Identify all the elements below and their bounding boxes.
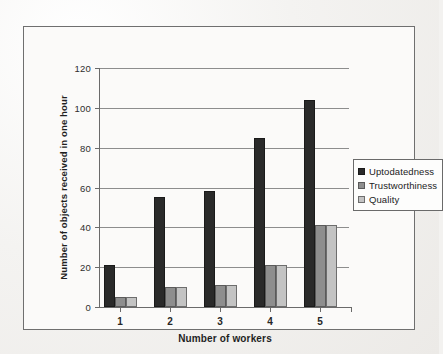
- x-tick-mark: [270, 307, 271, 312]
- plot-area: 020406080100120: [99, 68, 349, 307]
- legend-swatch-icon: [358, 168, 365, 175]
- y-tick-mark: [95, 188, 100, 189]
- x-tick-label: 5: [317, 316, 323, 327]
- legend-label: Trustworthiness: [369, 180, 437, 191]
- y-tick-label: 80: [80, 142, 91, 153]
- y-tick-mark: [95, 227, 100, 228]
- bar: [204, 191, 215, 307]
- bar: [276, 265, 287, 307]
- x-tick-label: 4: [267, 316, 273, 327]
- y-tick-mark: [95, 267, 100, 268]
- x-axis-line: [99, 307, 351, 308]
- chart-legend: UptodatednessTrustworthinessQuality: [353, 159, 443, 211]
- y-tick-mark: [95, 68, 100, 69]
- bar: [176, 287, 187, 307]
- x-tick-mark: [220, 307, 221, 312]
- bar: [215, 285, 226, 307]
- legend-item[interactable]: Trustworthiness: [358, 178, 437, 192]
- x-tick-mark: [170, 307, 171, 312]
- legend-label: Uptodatedness: [369, 166, 434, 177]
- gridline: [99, 68, 349, 69]
- y-tick-label: 40: [80, 222, 91, 233]
- legend-swatch-icon: [358, 196, 365, 203]
- x-tick-mark: [120, 307, 121, 312]
- x-tick-mark: [320, 307, 321, 312]
- y-tick-label: 0: [86, 302, 91, 313]
- y-tick-label: 60: [80, 182, 91, 193]
- x-tick-mark: [351, 307, 352, 312]
- y-tick-label: 100: [75, 102, 91, 113]
- legend-label: Quality: [369, 194, 399, 205]
- bar: [265, 265, 276, 307]
- legend-swatch-icon: [358, 182, 365, 189]
- bar: [326, 225, 337, 307]
- bar: [154, 197, 165, 307]
- x-tick-label: 1: [117, 316, 123, 327]
- chart-frame: Number of objects received in one hour N…: [23, 26, 415, 330]
- y-tick-label: 120: [75, 63, 91, 74]
- bar: [226, 285, 237, 307]
- bar: [104, 265, 115, 307]
- bar: [115, 297, 126, 307]
- bar: [165, 287, 176, 307]
- y-tick-label: 20: [80, 262, 91, 273]
- y-tick-mark: [95, 108, 100, 109]
- bar: [304, 100, 315, 307]
- y-tick-mark: [95, 307, 100, 308]
- bar: [254, 138, 265, 307]
- legend-item[interactable]: Quality: [358, 192, 437, 206]
- x-tick-label: 3: [217, 316, 223, 327]
- legend-item[interactable]: Uptodatedness: [358, 164, 437, 178]
- x-axis-title: Number of workers: [99, 333, 351, 344]
- bar: [126, 297, 137, 307]
- y-tick-mark: [95, 148, 100, 149]
- bar: [315, 225, 326, 307]
- x-tick-label: 2: [167, 316, 173, 327]
- y-axis-title: Number of objects received in one hour: [58, 68, 72, 307]
